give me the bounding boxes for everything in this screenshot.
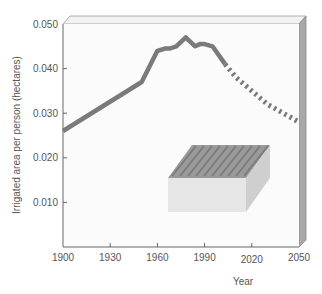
x-tick-label: 1930 — [99, 252, 122, 263]
y-tick-label: 0.020 — [33, 152, 58, 163]
x-tick-label: 2020 — [241, 254, 264, 265]
frame-side — [299, 16, 306, 247]
frame-top — [63, 16, 306, 24]
x-axis-title: Year — [233, 276, 254, 287]
y-tick-label: 0.050 — [33, 19, 58, 30]
y-axis-title: Irrigated area per person (hectares) — [11, 56, 22, 214]
plot-area — [63, 24, 299, 247]
y-tick-label: 0.010 — [33, 197, 58, 208]
y-tick-label: 0.030 — [33, 108, 58, 119]
x-tick-label: 1960 — [146, 252, 169, 263]
x-tick-label: 2050 — [288, 252, 311, 263]
y-tick-label: 0.040 — [33, 63, 58, 74]
x-tick-label: 1990 — [193, 252, 216, 263]
y-ticks: 0.0100.0200.0300.0400.050 — [33, 19, 67, 208]
line-chart: 0.0100.0200.0300.0400.050 19001930196019… — [0, 0, 322, 294]
chart-container: 0.0100.0200.0300.0400.050 19001930196019… — [0, 0, 322, 294]
x-tick-label: 1900 — [52, 252, 75, 263]
